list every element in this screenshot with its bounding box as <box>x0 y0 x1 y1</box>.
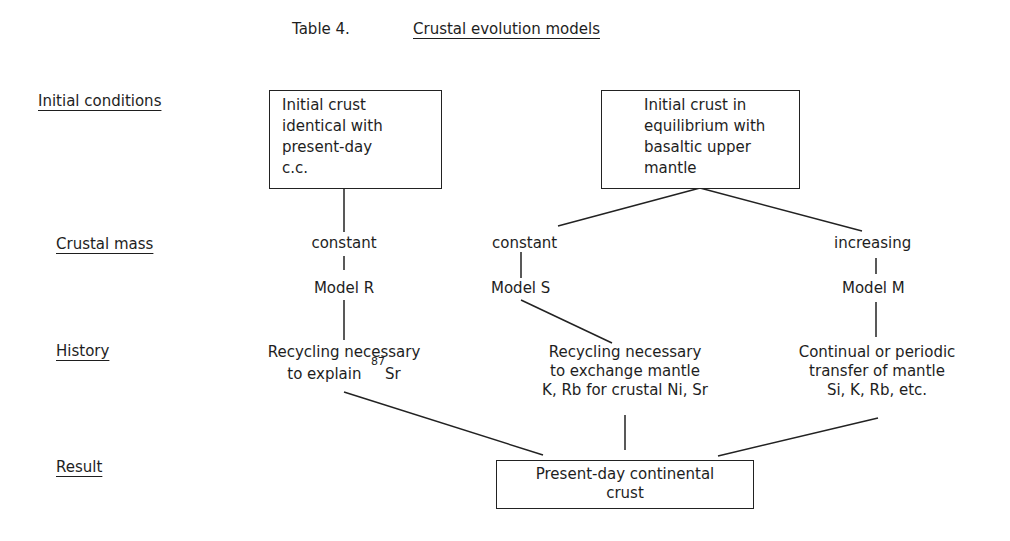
box-line: Initial crust in <box>644 95 799 116</box>
box-line: mantle <box>644 158 799 179</box>
row-label-result: Result <box>56 458 102 476</box>
connector-history-m-to-result <box>718 418 878 456</box>
history-m-line2: transfer of mantle <box>799 362 956 381</box>
history-r-prefix: to explain <box>287 365 361 383</box>
history-s-line1: Recycling necessary <box>542 343 708 362</box>
initial-box-right-text: Initial crust in equilibrium with basalt… <box>602 91 799 179</box>
result-box-text: Present-day continental crust <box>497 461 753 503</box>
result-box: Present-day continental crust <box>496 460 754 509</box>
row-label-history: History <box>56 342 109 360</box>
isotope-mass: 87 <box>371 355 385 368</box>
crustal-mass-model-m: increasing <box>834 234 911 253</box>
box-line: c.c. <box>282 158 441 179</box>
result-line1: Present-day continental <box>497 465 753 484</box>
row-label-crustal-mass: Crustal mass <box>56 235 153 253</box>
box-line: identical with <box>282 116 441 137</box>
history-m-line1: Continual or periodic <box>799 343 956 362</box>
page-title: Crustal evolution models <box>413 20 600 38</box>
connector-model-s-to-history <box>521 300 612 343</box>
box-line: basaltic upper <box>644 137 799 158</box>
history-s-line2: to exchange mantle <box>542 362 708 381</box>
crustal-mass-model-r: constant <box>311 234 376 253</box>
initial-box-basaltic-mantle: Initial crust in equilibrium with basalt… <box>601 90 800 189</box>
box-line: Initial crust <box>282 95 441 116</box>
row-label-initial-conditions: Initial conditions <box>38 92 161 110</box>
connector-history-r-to-result <box>344 392 543 455</box>
crustal-mass-model-s: constant <box>492 234 557 253</box>
history-model-m: Continual or periodic transfer of mantle… <box>799 343 956 400</box>
model-m-label: Model M <box>842 279 905 298</box>
isotope-element: Sr <box>385 365 401 383</box>
history-r-line1: Recycling necessary <box>268 343 421 362</box>
model-s-label: Model S <box>491 279 550 298</box>
initial-box-present-day-crust: Initial crust identical with present-day… <box>269 90 442 189</box>
table-label: Table 4. <box>292 20 350 38</box>
box-line: equilibrium with <box>644 116 799 137</box>
connector-right-box-to-increasing <box>700 188 862 231</box>
initial-box-left-text: Initial crust identical with present-day… <box>270 91 441 179</box>
history-r-line2: to explain 87Sr <box>268 365 421 384</box>
history-model-r: Recycling necessary to explain 87Sr <box>268 343 421 384</box>
history-s-line3: K, Rb for crustal Ni, Sr <box>542 381 708 400</box>
result-line2: crust <box>497 484 753 503</box>
box-line: present-day <box>282 137 441 158</box>
history-m-line3: Si, K, Rb, etc. <box>799 381 956 400</box>
connector-right-box-to-constant <box>558 188 700 226</box>
history-model-s: Recycling necessary to exchange mantle K… <box>542 343 708 400</box>
model-r-label: Model R <box>314 279 374 298</box>
